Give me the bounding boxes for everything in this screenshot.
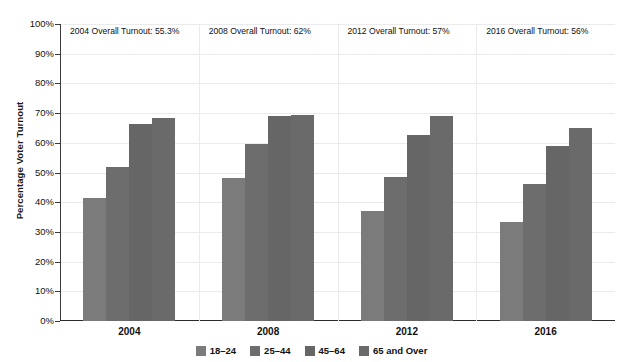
y-axis-tick xyxy=(55,262,60,263)
legend-item[interactable]: 18–24 xyxy=(196,345,236,356)
y-axis-tick-label: 80% xyxy=(0,77,54,88)
bar xyxy=(361,211,384,321)
legend-item[interactable]: 25–44 xyxy=(250,345,290,356)
bar xyxy=(523,184,546,321)
bar xyxy=(407,135,430,321)
y-axis-tick-label: 100% xyxy=(0,18,54,29)
annotation-overall-turnout: 2008 Overall Turnout: 62% xyxy=(209,26,332,37)
plot-area: 2004 Overall Turnout: 55.3%2008 Overall … xyxy=(60,24,615,321)
y-axis-tick xyxy=(55,291,60,292)
y-axis-tick xyxy=(55,173,60,174)
y-axis-tick xyxy=(55,321,60,322)
legend-swatch-icon xyxy=(305,346,315,356)
y-axis-tick-label: 70% xyxy=(0,107,54,118)
bar xyxy=(546,146,569,321)
legend-swatch-icon xyxy=(250,346,260,356)
panel-separator xyxy=(338,24,339,321)
bar xyxy=(83,198,106,321)
x-axis-tick-label: 2012 xyxy=(338,326,477,337)
legend-item[interactable]: 45–64 xyxy=(305,345,345,356)
y-axis-title: Percentage Voter Turnout xyxy=(14,81,25,241)
bar xyxy=(500,222,523,321)
y-axis-tick-label: 10% xyxy=(0,285,54,296)
legend-label: 18–24 xyxy=(210,345,236,356)
legend-label: 25–44 xyxy=(264,345,290,356)
bar xyxy=(222,178,245,321)
y-axis-tick-label: 40% xyxy=(0,196,54,207)
x-axis-tick-label: 2016 xyxy=(476,326,615,337)
y-axis-tick-label: 20% xyxy=(0,256,54,267)
bar xyxy=(152,118,175,321)
legend-swatch-icon xyxy=(196,346,206,356)
y-axis-tick xyxy=(55,24,60,25)
y-axis-tick xyxy=(55,113,60,114)
annotation-overall-turnout: 2016 Overall Turnout: 56% xyxy=(486,26,609,37)
annotation-overall-turnout: 2004 Overall Turnout: 55.3% xyxy=(70,26,193,37)
bar xyxy=(430,116,453,321)
y-axis-tick-label: 30% xyxy=(0,226,54,237)
y-axis-tick-label: 50% xyxy=(0,167,54,178)
y-axis-tick xyxy=(55,143,60,144)
y-axis-tick-label: 60% xyxy=(0,137,54,148)
voter-turnout-bar-chart: Percentage Voter Turnout 2004 Overall Tu… xyxy=(0,0,623,362)
x-axis-tick-label: 2004 xyxy=(60,326,199,337)
y-axis-tick xyxy=(55,202,60,203)
bar xyxy=(268,116,291,321)
y-axis-tick xyxy=(55,83,60,84)
panel-separator xyxy=(476,24,477,321)
y-axis-tick xyxy=(55,232,60,233)
legend-swatch-icon xyxy=(359,346,369,356)
bar xyxy=(129,124,152,322)
y-axis-tick xyxy=(55,54,60,55)
annotation-overall-turnout: 2012 Overall Turnout: 57% xyxy=(348,26,471,37)
x-axis-tick-label: 2008 xyxy=(199,326,338,337)
y-axis-tick-label: 90% xyxy=(0,48,54,59)
legend-item[interactable]: 65 and Over xyxy=(359,345,427,356)
bar xyxy=(384,177,407,321)
bar xyxy=(569,128,592,321)
bar xyxy=(245,144,268,321)
panel-separator xyxy=(199,24,200,321)
bar xyxy=(291,115,314,321)
legend-label: 45–64 xyxy=(319,345,345,356)
legend-label: 65 and Over xyxy=(373,345,427,356)
chart-legend: 18–2425–4445–6465 and Over xyxy=(0,345,623,356)
y-axis-tick-label: 0% xyxy=(0,315,54,326)
bar xyxy=(106,167,129,321)
